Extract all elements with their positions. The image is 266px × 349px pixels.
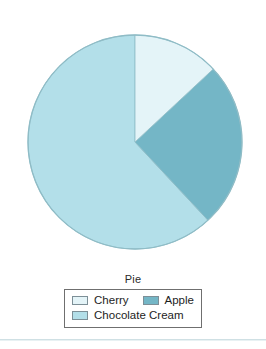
pie-chart-area (0, 0, 266, 268)
pie-slices (28, 35, 242, 249)
legend-item-cherry[interactable]: Cherry (72, 294, 129, 307)
pie-chart-svg (0, 0, 266, 268)
legend-swatch-chocolate-cream (72, 311, 88, 320)
legend-item-apple[interactable]: Apple (143, 294, 194, 307)
legend-swatch-cherry (72, 296, 88, 305)
legend-title: Pie (0, 272, 266, 286)
legend-block: Pie Cherry Apple Chocolate Cream (0, 272, 266, 328)
legend-item-chocolate-cream[interactable]: Chocolate Cream (72, 309, 183, 322)
legend-box: Cherry Apple Chocolate Cream (64, 289, 202, 328)
legend-label-cherry: Cherry (94, 294, 129, 307)
legend-label-apple: Apple (165, 294, 194, 307)
legend-label-chocolate-cream: Chocolate Cream (94, 309, 183, 322)
bottom-divider-shadow (0, 340, 266, 341)
legend-swatch-apple (143, 296, 159, 305)
chart-page: Pie Cherry Apple Chocolate Cream (0, 0, 266, 349)
legend-row: Chocolate Cream (72, 308, 194, 323)
legend-row: Cherry Apple (72, 293, 194, 308)
